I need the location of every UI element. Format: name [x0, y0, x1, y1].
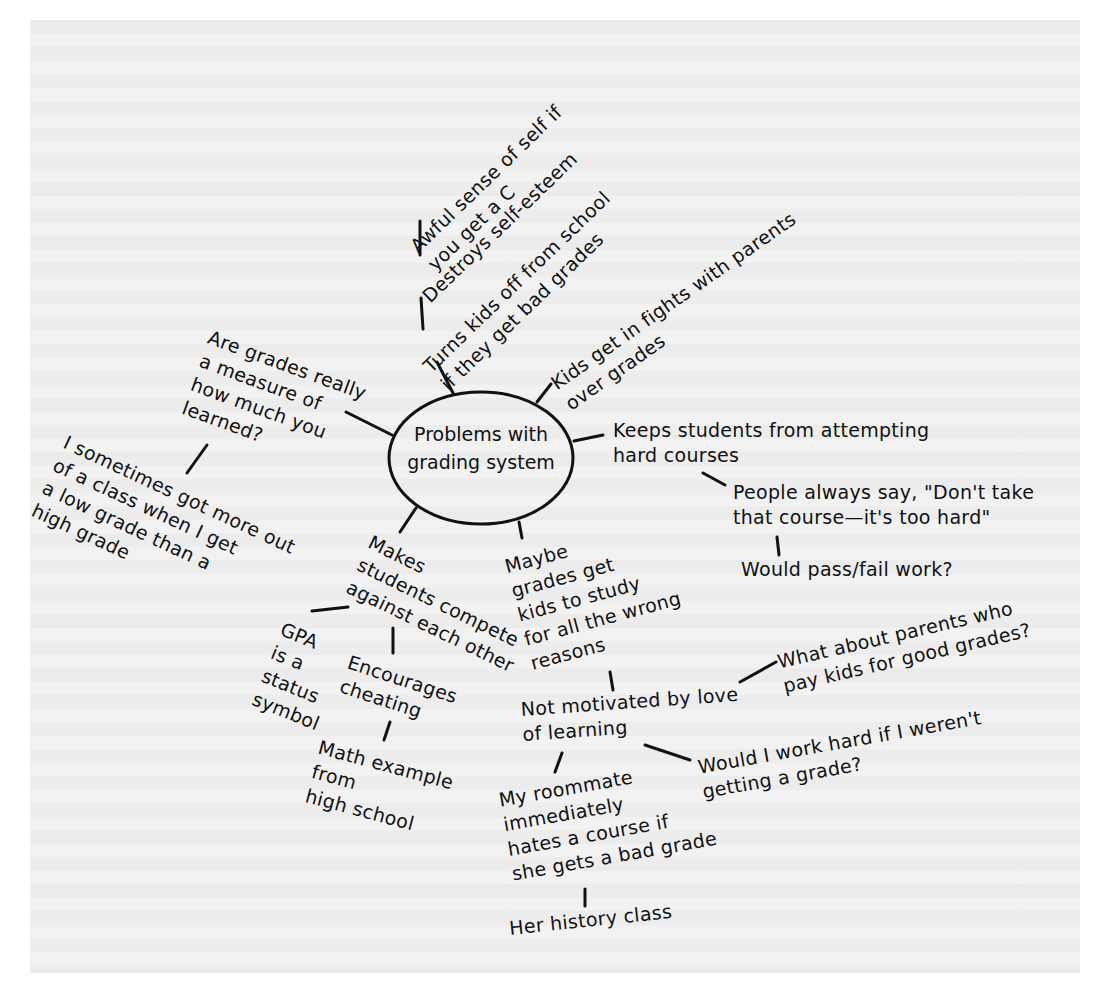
node-keeps-students: Keeps students from attempting hard cour… [613, 418, 929, 468]
node-pass-fail: Would pass/fail work? [741, 557, 953, 582]
central-topic: Problems with grading system [388, 420, 574, 476]
node-people-always-say: People always say, "Don't take that cour… [733, 480, 1034, 530]
